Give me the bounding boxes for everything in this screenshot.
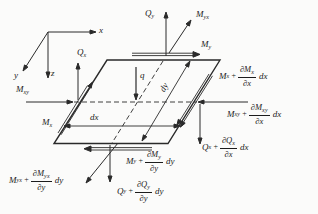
label-q: q — [140, 71, 145, 80]
moment-mxy-arrow — [26, 100, 73, 104]
label-dx: dx — [90, 113, 99, 122]
shear-qx-arrow — [76, 63, 80, 100]
y-axis-label: y — [14, 71, 18, 80]
label-qy: Qy — [145, 9, 154, 19]
dim-dx-arrow — [64, 124, 180, 128]
y-axis-arrow — [23, 32, 48, 71]
plate-element-diagram: x y z Qx Qy Myx My q Mxy Mx dx dy Mx + ∂… — [0, 0, 318, 214]
label-qx: Qx — [77, 48, 86, 58]
label-myx: Myx — [196, 10, 209, 20]
label-qx-increment: Qx + ∂Qx∂x dx — [202, 136, 249, 159]
load-q-arrow — [134, 67, 138, 100]
x-axis-arrow — [48, 30, 96, 34]
label-mx: Mx — [42, 118, 52, 128]
label-mxy-increment: Mxy + ∂Mxy∂x dx — [227, 103, 281, 126]
label-qy-increment: Qy + ∂Qy∂y dy — [117, 180, 164, 203]
label-myx-increment: Myx + ∂Myx∂y dy — [9, 169, 63, 192]
label-mxy: Mxy — [16, 85, 29, 95]
shear-qy-arrow — [164, 12, 168, 56]
x-axis-label: x — [99, 26, 103, 35]
z-axis-arrow — [46, 32, 50, 78]
z-axis-label: z — [51, 69, 55, 78]
label-mx-increment: Mx + ∂Mx∂x dx — [219, 65, 268, 88]
label-my-increment: My + ∂My∂y dy — [126, 150, 175, 173]
dim-dy-arrow — [142, 61, 190, 141]
label-my: My — [201, 40, 211, 50]
moment-myx-arrow — [169, 20, 191, 53]
